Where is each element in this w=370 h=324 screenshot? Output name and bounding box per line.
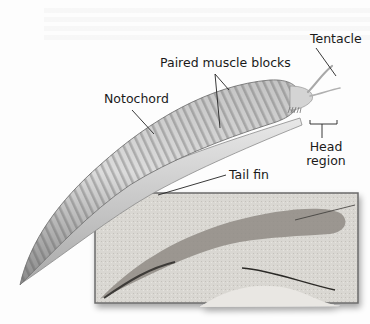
label-notochord: Notochord [104,92,169,106]
label-head-region-line1: Head [306,140,346,154]
label-paired-muscle-blocks: Paired muscle blocks [160,56,291,70]
label-tail-fin: Tail fin [229,168,269,182]
label-tentacle: Tentacle [310,32,362,46]
label-head-region-line2: region [306,154,346,168]
fossil-photo [95,193,358,307]
label-head-region: Head region [306,140,346,168]
tentacle-shape [308,66,332,92]
